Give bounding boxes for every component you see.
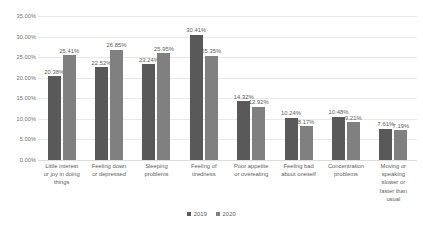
y-axis: 35.00%30.00%25.00%20.00%15.00%10.00%5.00… [2,16,36,160]
bar-slot: 8.17% [300,16,313,160]
bar[interactable] [48,76,61,160]
bar-value-label: 8.17% [298,119,315,125]
plot-area: 35.00%30.00%25.00%20.00%15.00%10.00%5.00… [0,0,423,234]
bar-slot: 25.95% [157,16,170,160]
x-axis-category-label: Feeling downor depressed [85,162,132,178]
category-label-line: Little interest [39,162,84,170]
bar-value-label: 25.95% [154,46,174,52]
y-axis-tick: 30.00% [16,34,36,40]
y-axis-tick: 15.00% [16,95,36,101]
bar-slot: 10.24% [285,16,298,160]
legend-item-2020[interactable]: 2020 [216,211,236,217]
bar[interactable] [110,50,123,160]
bar-value-label: 9.21% [345,115,362,121]
bar-slot: 20.38% [48,16,61,160]
bar-slot: 30.41% [190,16,203,160]
y-axis-tick: 35.00% [16,13,36,19]
x-axis-categories: Little interestor joy in doingthingsFeel… [38,162,417,203]
bar-chart: 35.00%30.00%25.00%20.00%15.00%10.00%5.00… [0,0,423,234]
bar[interactable] [63,55,76,160]
category-label-line: about oneself [276,170,321,178]
category-label-line: or overeating [229,170,274,178]
bar-group: 30.41%25.35% [180,16,227,160]
x-axis-category-label: Moving orspeakingslower orfaster thanusu… [370,162,417,203]
category-label-line: slower or [371,178,416,186]
bar-slot: 7.19% [394,16,407,160]
bar-slot: 22.52% [95,16,108,160]
category-label-line: Moving or [371,162,416,170]
bar-slot: 25.41% [63,16,76,160]
y-axis-tick: 20.00% [16,75,36,81]
bar[interactable] [205,56,218,160]
bar-groups: 20.38%25.41%22.52%26.85%23.24%25.95%30.4… [38,16,417,160]
bar-slot: 23.24% [142,16,155,160]
category-label-line: or joy in doing [39,170,84,178]
bar-slot: 12.92% [252,16,265,160]
bar-slot: 9.21% [347,16,360,160]
bar-value-label: 30.41% [186,27,206,33]
bar[interactable] [285,118,298,160]
x-axis-category-label: Feeling badabout oneself [275,162,322,178]
bar-value-label: 7.19% [392,123,409,129]
bar[interactable] [332,117,345,160]
bar[interactable] [347,122,360,160]
y-axis-tick: 5.00% [20,136,36,142]
bar-group: 7.61%7.19% [370,16,417,160]
bar-value-label: 20.38% [44,69,64,75]
bar-slot: 26.85% [110,16,123,160]
category-label-line: problems [323,170,368,178]
category-label-line: faster than [371,187,416,195]
bar[interactable] [95,67,108,160]
bar-group: 20.38%25.41% [38,16,85,160]
bar-value-label: 23.24% [139,57,159,63]
x-axis-category-label: Poor appetiteor overeating [228,162,275,178]
gridline [38,160,417,161]
bar-slot: 7.61% [379,16,392,160]
category-label-line: Feeling bad [276,162,321,170]
y-axis-tick: 25.00% [16,54,36,60]
bar[interactable] [142,64,155,160]
category-label-line: Sleeping [134,162,179,170]
category-label-line: problems [134,170,179,178]
bar-group: 10.48%9.21% [322,16,369,160]
bar-value-label: 10.24% [281,110,301,116]
category-label-line: things [39,178,84,186]
category-label-line: Feeling down [86,162,131,170]
bar-slot: 14.32% [237,16,250,160]
bar-value-label: 22.52% [92,60,112,66]
category-label-line: usual [371,195,416,203]
category-label-line: tiredness [181,170,226,178]
y-axis-tick: 10.00% [16,116,36,122]
bar-slot: 10.48% [332,16,345,160]
category-label-line: Concentration [323,162,368,170]
bar-value-label: 25.41% [59,48,79,54]
x-axis-category-label: Feeling oftiredness [180,162,227,178]
bar[interactable] [300,126,313,160]
bar[interactable] [252,107,265,160]
chart-legend: 20192020 [0,211,423,217]
bar-slot: 25.35% [205,16,218,160]
bar[interactable] [379,129,392,160]
y-axis-tick: 0.00% [20,157,36,163]
bar-value-label: 26.85% [107,42,127,48]
category-label-line: or depressed [86,170,131,178]
category-label-line: Poor appetite [229,162,274,170]
bar[interactable] [157,53,170,160]
bar-group: 22.52%26.85% [85,16,132,160]
bar-value-label: 12.92% [249,99,269,105]
legend-swatch-icon [216,212,220,216]
legend-label: 2020 [223,211,236,217]
legend-label: 2019 [194,211,207,217]
bar-value-label: 25.35% [201,48,221,54]
x-axis-category-label: Little interestor joy in doingthings [38,162,85,187]
category-label-line: speaking [371,170,416,178]
bar[interactable] [394,130,407,160]
category-label-line: Feeling of [181,162,226,170]
x-axis-category-label: Sleepingproblems [133,162,180,178]
legend-swatch-icon [187,212,191,216]
x-axis-category-label: Concentrationproblems [322,162,369,178]
legend-item-2019[interactable]: 2019 [187,211,207,217]
bar[interactable] [237,101,250,160]
bar-group: 10.24%8.17% [275,16,322,160]
bar-group: 23.24%25.95% [133,16,180,160]
